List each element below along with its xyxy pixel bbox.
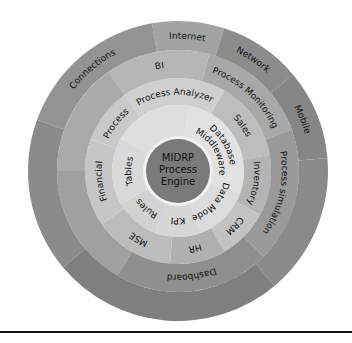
horizontal-rule bbox=[0, 331, 352, 333]
core-label-line: Process bbox=[159, 164, 197, 175]
core-label-line: MIDRP bbox=[162, 152, 194, 163]
core-node: MIDRPProcessEngine bbox=[143, 136, 213, 206]
label-bi: BI bbox=[154, 60, 165, 71]
core-label-line: Engine bbox=[161, 176, 195, 187]
sunburst-diagram: DatabaseMiddlewareData ModelKPIRulesTabl… bbox=[0, 0, 352, 343]
label-kpi: KPI bbox=[170, 215, 186, 226]
